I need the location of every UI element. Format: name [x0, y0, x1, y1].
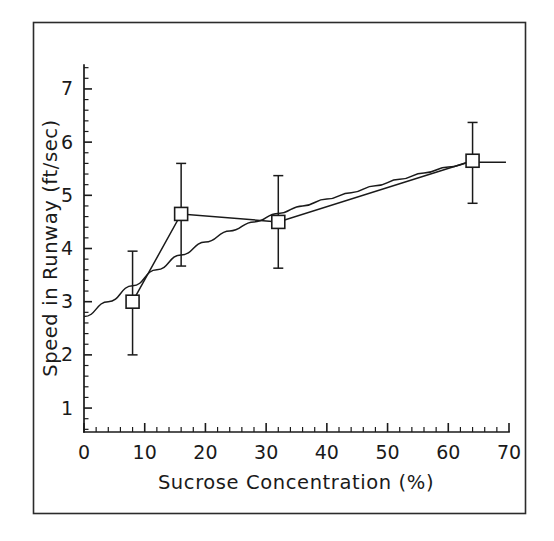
- x-tick-label: 40: [315, 441, 339, 463]
- x-tick-label: 70: [497, 441, 521, 463]
- x-axis-title: Sucrose Concentration (%): [158, 471, 434, 494]
- y-axis-title: Speed in Runway (ft/sec): [39, 119, 62, 377]
- x-tick-label: 10: [133, 441, 157, 463]
- x-tick-label: 60: [436, 441, 460, 463]
- y-tick-label: 2: [61, 343, 73, 365]
- y-tick-label: 3: [61, 290, 73, 312]
- y-tick-label: 6: [61, 131, 73, 153]
- data-point-marker: [466, 154, 479, 167]
- y-tick-label: 5: [61, 184, 73, 206]
- data-point-marker: [175, 207, 188, 220]
- chart-canvas: 010203040506070 1234567 Sucrose Concentr…: [0, 0, 554, 541]
- y-tick-label: 7: [61, 77, 73, 99]
- x-tick-label: 20: [193, 441, 217, 463]
- figure-root: 010203040506070 1234567 Sucrose Concentr…: [0, 0, 554, 541]
- x-tick-label: 30: [254, 441, 278, 463]
- x-tick-label: 0: [78, 441, 90, 463]
- y-tick-label: 1: [61, 397, 73, 419]
- data-point-marker: [126, 295, 139, 308]
- y-tick-label: 4: [61, 237, 73, 259]
- data-point-marker: [272, 215, 285, 228]
- x-tick-label: 50: [375, 441, 399, 463]
